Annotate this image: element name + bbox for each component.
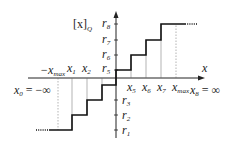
label-neg-xmax: −xmax	[40, 63, 66, 78]
label-r8: r8	[102, 16, 111, 31]
quantizer-staircase-diagram: [x]Q x r8 r7 r6 r5 r3 r2 r1 −xmax x1 x2 …	[0, 0, 231, 147]
label-r5: r5	[102, 61, 111, 76]
label-x1: x1	[66, 61, 76, 76]
label-x8-infinity: x8 = ∞	[189, 83, 220, 98]
label-xmax: xmax	[171, 80, 190, 95]
x-axis-label: x	[201, 61, 208, 75]
label-r3: r3	[122, 93, 131, 108]
x-axis-arrow-icon	[198, 76, 205, 81]
label-x6: x6	[141, 80, 151, 95]
label-r6: r6	[102, 47, 111, 62]
label-r2: r2	[122, 108, 131, 123]
label-r1: r1	[122, 123, 130, 138]
y-axis-arrow-icon	[114, 11, 119, 18]
label-x5: x5	[126, 80, 136, 95]
y-axis-label: [x]Q	[73, 17, 92, 33]
label-x7: x7	[156, 80, 166, 95]
label-x0-neg-infinity: x0 = −∞	[13, 83, 51, 98]
label-x2: x2	[81, 61, 91, 76]
label-r7: r7	[102, 32, 111, 47]
